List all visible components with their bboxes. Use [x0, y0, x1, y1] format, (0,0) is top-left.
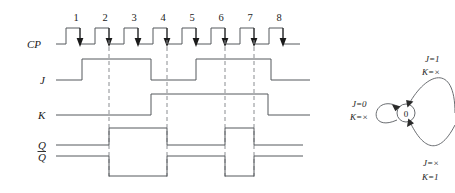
timing-and-state-figure: 1 2 3 4 5 6 7 8 — [0, 0, 455, 193]
incoming-bottom-transition — [407, 119, 455, 146]
k-waveform — [56, 94, 310, 115]
clock-number-2: 2 — [102, 12, 107, 23]
j-signal-path — [56, 59, 310, 80]
qbar-signal-path — [56, 156, 303, 176]
clock-number-1: 1 — [73, 12, 78, 23]
incoming-top-path — [409, 78, 455, 113]
clock-number-4: 4 — [160, 12, 166, 23]
state-diagram: 0 J=0 K=× J=1 K=× J=× K=1 — [349, 54, 455, 182]
clock-number-5: 5 — [189, 12, 194, 23]
incoming-top-j-label: J=1 — [425, 54, 440, 64]
figure-root: 1 2 3 4 5 6 7 8 — [0, 0, 455, 193]
clock-signal-path — [56, 28, 300, 44]
clock-number-6: 6 — [218, 12, 223, 23]
j-waveform — [56, 59, 310, 80]
clock-number-3: 3 — [131, 12, 136, 23]
label-q: Q — [38, 139, 46, 151]
label-qbar-group: Q — [38, 151, 47, 163]
incoming-top-k-label: K=× — [421, 67, 440, 77]
clock-pulse-numbers: 1 2 3 4 5 6 7 8 — [73, 12, 281, 23]
k-signal-path — [56, 94, 310, 115]
label-qbar: Q — [38, 151, 46, 163]
clock-waveform — [56, 28, 300, 44]
label-k: K — [37, 109, 46, 121]
incoming-bottom-k-label: K=1 — [421, 172, 439, 182]
state-node-0-label: 0 — [404, 109, 409, 119]
label-cp: CP — [27, 38, 41, 50]
incoming-bottom-j-label: J=× — [423, 158, 439, 168]
clock-number-7: 7 — [247, 12, 252, 23]
self-loop-k-label: K=× — [349, 112, 368, 122]
q-signal-path — [56, 128, 303, 145]
q-waveform — [56, 128, 303, 145]
toggle-guide-lines — [109, 40, 254, 180]
signal-labels: CP J K Q Q — [27, 38, 46, 163]
incoming-bottom-path — [410, 122, 455, 146]
qbar-waveform — [56, 156, 303, 176]
self-loop-j-label: J=0 — [352, 99, 367, 109]
label-j: J — [40, 74, 46, 86]
clock-number-8: 8 — [276, 12, 281, 23]
